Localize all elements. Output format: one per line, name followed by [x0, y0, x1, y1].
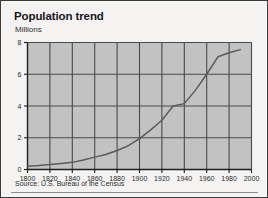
svg-text:2: 2: [18, 134, 22, 141]
footer-divider: [11, 192, 258, 193]
svg-text:4: 4: [18, 103, 22, 110]
line-chart-svg: 02468 1800182018401860188019001920194019…: [1, 1, 268, 198]
svg-text:2000: 2000: [244, 175, 260, 182]
plot-area: 02468 1800182018401860188019001920194019…: [1, 1, 268, 198]
svg-text:1900: 1900: [132, 175, 148, 182]
y-axis-tick-labels: 02468: [18, 39, 22, 173]
svg-text:0: 0: [18, 166, 22, 173]
svg-text:6: 6: [18, 71, 22, 78]
svg-text:1960: 1960: [199, 175, 215, 182]
source-note: Source: U.S. Bureau of the Census: [15, 180, 124, 187]
chart-figure: Population trend Millions 02468 18001820…: [0, 0, 268, 198]
svg-text:8: 8: [18, 39, 22, 46]
svg-text:1920: 1920: [154, 175, 170, 182]
svg-text:1980: 1980: [221, 175, 237, 182]
svg-text:1940: 1940: [177, 175, 193, 182]
